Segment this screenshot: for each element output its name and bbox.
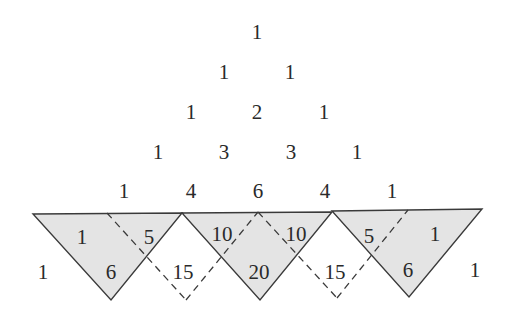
shaded-triangle-1 (33, 213, 182, 300)
pascal-entry-row3-col1: 3 (219, 142, 230, 163)
pascal-entry-row6-col1: 6 (106, 262, 117, 283)
pascal-entry-row3-col2: 3 (286, 142, 297, 163)
pascal-entry-row2-col1: 2 (252, 102, 263, 123)
pascal-entry-row3-col0: 1 (153, 142, 164, 163)
pascal-entry-row6-col5: 6 (403, 260, 414, 281)
pascal-entry-row5-col5: 1 (430, 224, 441, 245)
pascal-entry-row4-col1: 4 (186, 181, 197, 202)
pascal-entry-row1-col0: 1 (219, 62, 230, 83)
pascal-entry-row3-col3: 1 (352, 142, 363, 163)
pascal-entry-row4-col4: 1 (387, 181, 398, 202)
pascal-entry-row6-col0: 1 (38, 262, 49, 283)
pascal-entry-row6-col2: 15 (173, 262, 194, 283)
pascal-triangle-diagram: 111121133114641151010511615201561 (0, 0, 505, 319)
pascal-entry-row4-col2: 6 (253, 181, 264, 202)
pascal-entry-row5-col1: 5 (144, 227, 155, 248)
pascal-entry-row5-col3: 10 (286, 224, 307, 245)
pascal-entry-row5-col0: 1 (77, 227, 88, 248)
pascal-entry-row5-col2: 10 (212, 224, 233, 245)
shaded-triangle-3 (332, 209, 482, 297)
pascal-entry-row5-col4: 5 (364, 226, 375, 247)
shaded-triangle-2 (182, 212, 332, 300)
pascal-entry-row4-col0: 1 (119, 181, 130, 202)
pascal-entry-row2-col2: 1 (319, 102, 330, 123)
pascal-entry-row0-col0: 1 (252, 22, 263, 43)
pascal-entry-row6-col3: 20 (249, 262, 270, 283)
pascal-entry-row6-col4: 15 (325, 262, 346, 283)
pascal-entry-row2-col0: 1 (186, 102, 197, 123)
pascal-entry-row4-col3: 4 (320, 181, 331, 202)
pascal-entry-row1-col1: 1 (285, 62, 296, 83)
pascal-entry-row6-col6: 1 (470, 260, 481, 281)
